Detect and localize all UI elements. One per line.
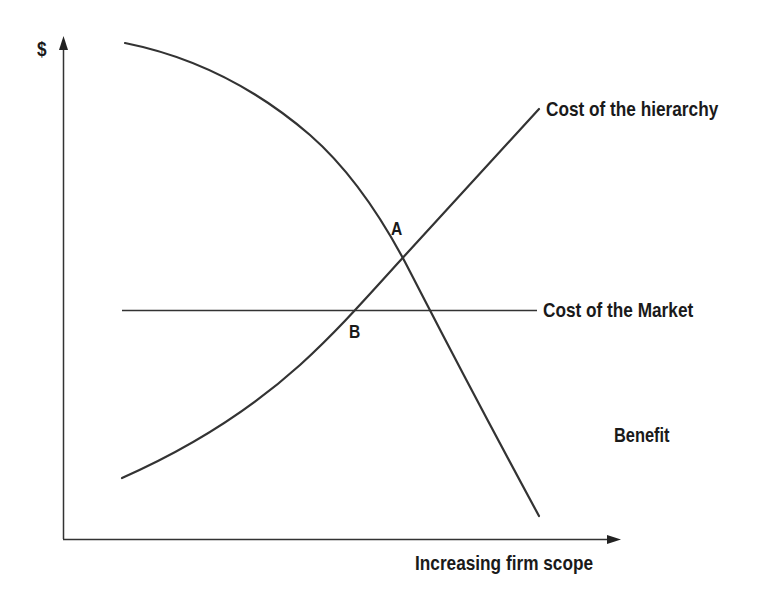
point-b-label: B	[349, 322, 360, 341]
y-axis-label: $	[37, 38, 47, 59]
cost-of-hierarchy-label: Cost of the hierarchy	[546, 98, 718, 119]
y-axis	[59, 36, 68, 539]
point-a-label: A	[391, 219, 402, 238]
x-axis-arrow-icon	[607, 535, 621, 544]
y-axis-arrow-icon	[59, 36, 68, 50]
benefit-label: Benefit	[614, 425, 670, 445]
cost-of-market-label: Cost of the Market	[543, 299, 693, 320]
x-axis	[63, 535, 621, 544]
cost-of-hierarchy-curve	[122, 109, 539, 478]
x-axis-label: Increasing firm scope	[415, 552, 593, 573]
